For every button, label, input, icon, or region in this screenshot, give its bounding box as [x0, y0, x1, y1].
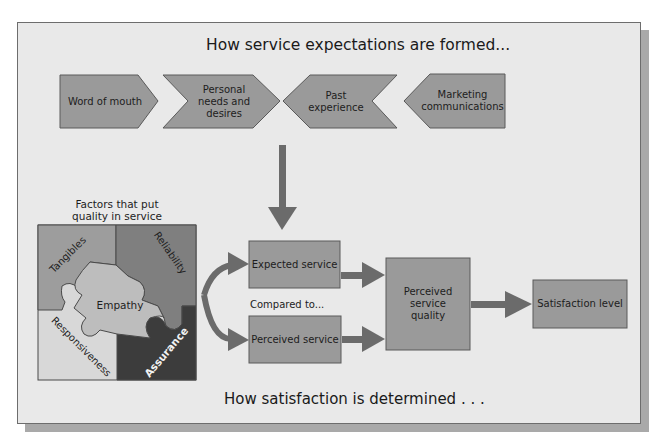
arrow-quality-to-satisfaction-icon [471, 291, 532, 318]
service-quality-line-1: Perceived [404, 286, 453, 298]
personal-needs-line-1: Personal [203, 84, 246, 96]
factors-heading-line-1: Factors that put [75, 198, 158, 210]
past-experience-line-2: experience [308, 102, 363, 114]
down-arrow-icon [268, 145, 297, 230]
personal-needs-label: Personal needs and desires [188, 75, 260, 128]
marketing-label: Marketing communications [420, 74, 505, 128]
service-quality-label: Perceived service quality [386, 258, 470, 350]
split-arrow-icon [204, 265, 232, 339]
split-arrow-head-bottom [228, 328, 249, 351]
word-of-mouth-label: Word of mouth [60, 75, 150, 128]
arrow-expected-to-quality-icon [341, 262, 385, 288]
split-arrow-head-top [228, 252, 249, 275]
compared-to-label: Compared to... [250, 297, 340, 313]
past-experience-label: Past experience [298, 75, 374, 128]
service-quality-line-3: quality [411, 310, 445, 322]
past-experience-line-1: Past [326, 90, 347, 102]
marketing-line-2: communications [421, 101, 504, 113]
perceived-service-label: Perceived service [249, 316, 341, 363]
arrow-perceived-to-quality-icon [342, 326, 385, 352]
expected-service-label: Expected service [249, 241, 340, 288]
empathy-label: Empathy [90, 298, 150, 312]
bottom-title: How satisfaction is determined . . . [224, 390, 485, 408]
factors-heading-line-2: quality in service [72, 210, 162, 222]
service-quality-line-2: service [410, 298, 446, 310]
personal-needs-line-2: needs and [198, 96, 250, 108]
personal-needs-line-3: desires [206, 108, 242, 120]
factors-heading: Factors that put quality in service [50, 197, 184, 223]
marketing-line-1: Marketing [438, 89, 488, 101]
satisfaction-label: Satisfaction level [533, 280, 627, 328]
